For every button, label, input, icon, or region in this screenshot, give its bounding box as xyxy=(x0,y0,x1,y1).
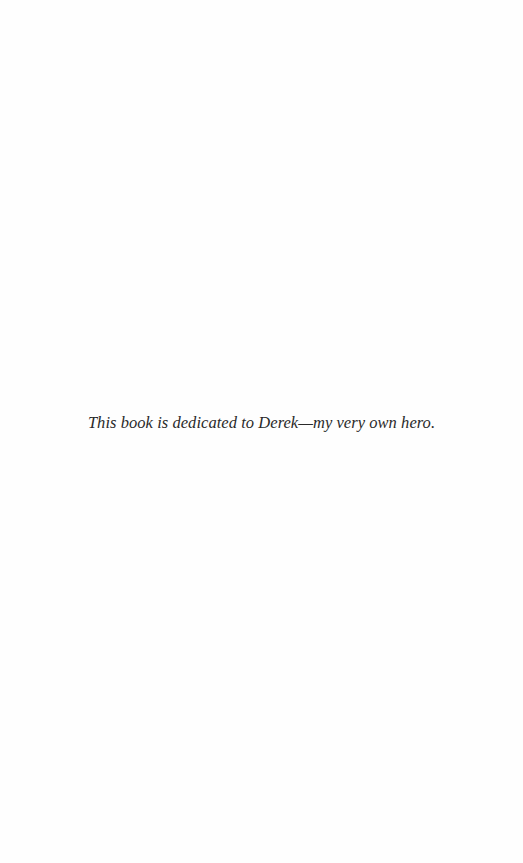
dedication-text: This book is dedicated to Derek—my very … xyxy=(0,412,523,434)
book-page: This book is dedicated to Derek—my very … xyxy=(0,0,523,863)
